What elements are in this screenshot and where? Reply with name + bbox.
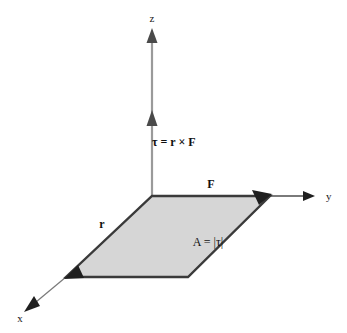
z-axis-label: z [150, 12, 155, 24]
area-parallelogram [66, 196, 270, 277]
figure-root: τ = r × F y z x F r A = |τ| [0, 0, 347, 333]
x-axis-label: x [17, 312, 23, 324]
torque-equation-label: τ = r × F [152, 135, 196, 149]
z-axis-arrowhead [147, 28, 158, 43]
x-axis-arrowhead [24, 296, 40, 312]
y-axis-arrowhead [303, 191, 315, 201]
torque-diagram: τ = r × F y z x F r A = |τ| [0, 0, 347, 333]
torque-arrowhead-icon [147, 110, 158, 126]
y-axis-label: y [326, 190, 332, 202]
area-magnitude-label: A = |τ| [193, 235, 223, 249]
force-vector-label: F [207, 177, 214, 191]
radius-vector-label: r [99, 217, 105, 231]
